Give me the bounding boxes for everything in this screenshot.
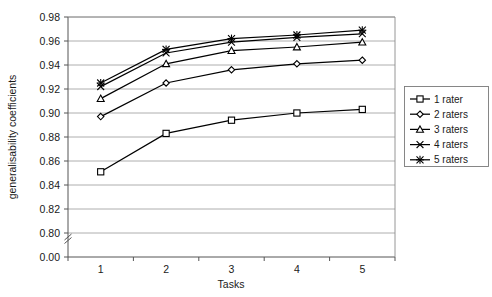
data-point-marker-asterisk: [358, 26, 366, 34]
data-point-marker-asterisk: [162, 45, 170, 53]
data-point-marker-asterisk: [293, 31, 301, 39]
data-point-marker-square: [163, 130, 169, 136]
x-tick-label: 4: [294, 263, 300, 275]
data-point-marker-square: [417, 96, 423, 102]
y-tick-label: 0.88: [40, 131, 61, 143]
y-tick-label: 0.92: [40, 83, 61, 95]
x-tick-label: 3: [229, 263, 235, 275]
data-point-marker-asterisk: [97, 79, 105, 87]
generalisability-coefficients-chart: 0.000.800.820.840.860.880.900.920.940.96…: [0, 0, 492, 297]
x-tick-label: 5: [359, 263, 365, 275]
x-tick-label: 1: [98, 263, 104, 275]
y-tick-label: 0.90: [40, 107, 61, 119]
legend-label: 5 raters: [434, 154, 468, 165]
data-point-marker-square: [359, 106, 365, 112]
legend-label: 2 raters: [434, 109, 468, 120]
chart-legend: 1 rater2 raters3 raters4 raters5 raters: [405, 87, 489, 167]
legend-label: 4 raters: [434, 139, 468, 150]
data-point-marker-square: [228, 117, 234, 123]
x-tick-label: 2: [163, 263, 169, 275]
legend-label: 3 raters: [434, 124, 468, 135]
y-tick-label: 0.98: [40, 11, 61, 23]
y-tick-label: 0.94: [40, 59, 61, 71]
legend-label: 1 rater: [434, 94, 464, 105]
data-point-marker-asterisk: [227, 35, 235, 43]
data-point-marker-square: [294, 110, 300, 116]
data-point-marker-square: [98, 169, 104, 175]
y-axis-title: generalisability coefficients: [6, 75, 18, 200]
y-tick-label: 0.82: [40, 203, 61, 215]
y-tick-label: 0.84: [40, 179, 61, 191]
y-tick-label: 0.80: [40, 227, 61, 239]
y-tick-label: 0.86: [40, 155, 61, 167]
chart-svg: 0.000.800.820.840.860.880.900.920.940.96…: [0, 0, 492, 297]
y-tick-label: 0.96: [40, 35, 61, 47]
x-axis-title: Tasks: [218, 278, 245, 290]
data-point-marker-asterisk: [416, 156, 424, 164]
y-tick-label: 0.00: [40, 251, 61, 263]
